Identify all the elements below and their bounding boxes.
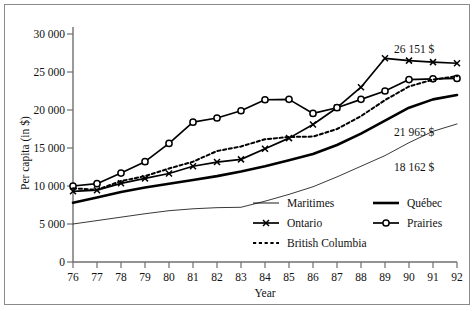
legend-item-prairies[interactable]: Prairies <box>373 217 443 229</box>
x-tick-label-85: 85 <box>283 271 295 283</box>
data-point <box>310 110 316 116</box>
data-point <box>358 96 364 102</box>
data-point <box>238 108 244 114</box>
x-tick-label-78: 78 <box>115 271 127 283</box>
y-axis-ticks <box>67 34 73 262</box>
legend-item-quebec[interactable]: Québec <box>373 197 442 209</box>
y-tick-10000: 10 000 <box>33 180 65 192</box>
x-tick-label-79: 79 <box>139 271 151 283</box>
legend-label-ontario: Ontario <box>287 217 322 229</box>
y-tick-30000: 30 000 <box>33 28 65 40</box>
legend-item-maritimes[interactable]: Maritimes <box>253 197 335 209</box>
legend-label-maritimes: Maritimes <box>287 197 335 209</box>
legend-item-ontario[interactable]: Ontario <box>253 217 322 229</box>
x-axis-ticks: 7677787980818283848586878889909192 <box>67 262 463 283</box>
series-ontario <box>70 55 460 194</box>
line-chart: Per capita (in $) 0 5 000 10 000 15 000 … <box>5 5 471 306</box>
legend-item-british-columbia[interactable]: British Columbia <box>253 237 367 249</box>
x-tick-label-76: 76 <box>67 271 79 283</box>
x-axis-title: Year <box>254 287 275 299</box>
y-axis-tick-labels: 0 5 000 10 000 15 000 20 000 25 000 30 0… <box>33 28 65 268</box>
data-point <box>214 115 220 121</box>
data-point <box>190 119 196 125</box>
y-tick-20000: 20 000 <box>33 104 65 116</box>
x-tick-label-77: 77 <box>91 271 103 283</box>
data-point <box>334 105 340 111</box>
legend-label-british-columbia: British Columbia <box>287 237 367 249</box>
x-tick-label-88: 88 <box>355 271 367 283</box>
data-point <box>406 77 412 83</box>
x-tick-label-83: 83 <box>235 271 247 283</box>
series-layer <box>70 55 460 224</box>
data-point <box>118 170 124 176</box>
data-point <box>142 159 148 165</box>
data-point <box>94 181 100 187</box>
y-tick-5000: 5 000 <box>39 218 65 230</box>
x-tick-label-81: 81 <box>187 271 199 283</box>
y-tick-0: 0 <box>59 256 65 268</box>
x-tick-label-84: 84 <box>259 271 271 283</box>
data-point <box>286 96 292 102</box>
data-point <box>382 88 388 94</box>
x-tick-label-90: 90 <box>403 271 415 283</box>
x-tick-label-86: 86 <box>307 271 319 283</box>
value-label-maritimes: 18 162 $ <box>394 161 435 173</box>
legend-marker-circle-icon <box>383 220 389 226</box>
data-point <box>166 140 172 146</box>
x-tick-label-82: 82 <box>211 271 223 283</box>
x-tick-label-80: 80 <box>163 271 175 283</box>
x-tick-label-91: 91 <box>427 271 439 283</box>
value-label-ontario: 26 151 $ <box>394 43 435 55</box>
y-tick-25000: 25 000 <box>33 66 65 78</box>
x-tick-label-87: 87 <box>331 271 343 283</box>
x-tick-label-92: 92 <box>451 271 463 283</box>
legend-label-quebec: Québec <box>407 197 442 209</box>
legend-label-prairies: Prairies <box>407 217 443 229</box>
chart-legend: MaritimesQuébecOntarioPrairiesBritish Co… <box>253 197 443 249</box>
value-label-qubec: 21 965 $ <box>394 126 435 138</box>
data-point <box>262 97 268 103</box>
y-tick-15000: 15 000 <box>33 142 65 154</box>
x-tick-label-89: 89 <box>379 271 391 283</box>
chart-frame: Per capita (in $) 0 5 000 10 000 15 000 … <box>4 4 470 305</box>
y-axis-title: Per capita (in $) <box>19 116 32 190</box>
